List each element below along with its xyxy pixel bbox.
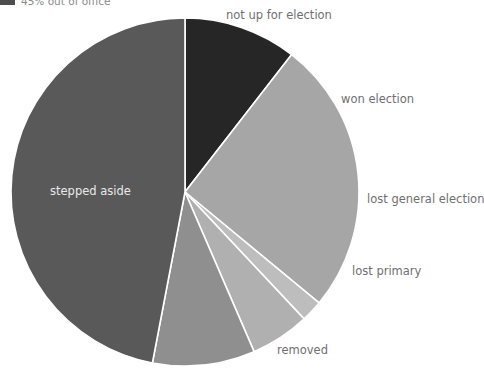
slice-label-not-up-for-election: not up for election bbox=[226, 9, 332, 22]
slice-label-stepped-aside: stepped aside bbox=[50, 185, 131, 198]
slice-label-lost-primary: lost primary bbox=[352, 265, 421, 278]
slice-label-won-election: won election bbox=[341, 93, 414, 106]
slice-label-lost-general-election: lost general election bbox=[367, 193, 484, 206]
slice-label-removed: removed bbox=[277, 344, 328, 357]
